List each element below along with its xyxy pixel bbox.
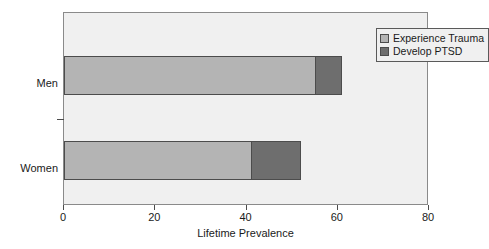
y-axis-tick-middle (57, 119, 64, 120)
bar-row (64, 141, 301, 180)
legend-swatch-icon (380, 47, 389, 56)
bar-segment-ptsd-women (251, 141, 301, 180)
legend-swatch-icon (380, 34, 389, 43)
x-axis-tick-4 (428, 205, 429, 210)
legend-item-develop-ptsd: Develop PTSD (380, 45, 484, 58)
legend-label: Develop PTSD (393, 46, 462, 57)
legend-item-experience-trauma: Experience Trauma (380, 32, 484, 45)
bar-segment-trauma-men (64, 56, 315, 95)
x-axis-tick-0 (63, 205, 64, 210)
bar-segment-trauma-women (64, 141, 251, 180)
x-axis-tick-2 (246, 205, 247, 210)
bar-row (64, 56, 342, 95)
chart-legend: Experience Trauma Develop PTSD (376, 28, 489, 62)
x-axis-title: Lifetime Prevalence (63, 228, 428, 239)
x-axis-tick-label-2: 40 (226, 212, 266, 223)
x-axis-tick-label-3: 60 (317, 212, 357, 223)
x-axis-tick-label-0: 0 (43, 212, 83, 223)
bar-segment-ptsd-men (315, 56, 342, 95)
x-axis-tick-label-1: 20 (134, 212, 174, 223)
legend-label: Experience Trauma (393, 33, 484, 44)
y-axis-label-women: Women (0, 163, 58, 174)
x-axis-tick-1 (154, 205, 155, 210)
x-axis-tick-3 (337, 205, 338, 210)
x-axis-tick-label-4: 80 (408, 212, 448, 223)
y-axis-label-men: Men (0, 78, 58, 89)
plot-area: Experience Trauma Develop PTSD (63, 12, 428, 205)
